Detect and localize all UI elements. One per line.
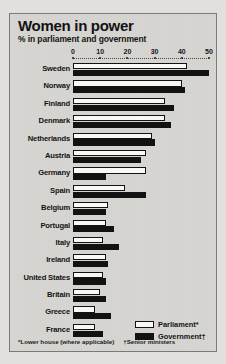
chart-row: Germany <box>10 167 216 184</box>
x-axis-tick-mark <box>126 57 128 59</box>
x-axis-tick-label: 0 <box>71 48 75 56</box>
bar-government <box>73 244 119 250</box>
country-label: Greece <box>10 307 70 316</box>
bar-pair <box>73 185 146 198</box>
bar-government <box>73 278 106 284</box>
bar-pair <box>73 133 155 146</box>
bar-government <box>73 87 185 93</box>
bar-government <box>73 261 108 267</box>
bar-pair <box>73 202 108 215</box>
bar-parliament <box>73 289 100 295</box>
bar-government <box>73 157 141 163</box>
x-axis-tick-mark <box>99 57 101 59</box>
chart-row: United States <box>10 272 216 289</box>
country-label: Norway <box>10 81 70 90</box>
chart-subtitle: % in parliament and government <box>18 34 216 45</box>
chart-row: Ireland <box>10 254 216 271</box>
bar-parliament <box>73 167 146 173</box>
chart-row: Britain <box>10 289 216 306</box>
bar-parliament <box>73 220 106 226</box>
bar-pair <box>73 306 111 319</box>
country-label: Netherlands <box>10 134 70 143</box>
country-label: United States <box>10 273 70 282</box>
country-label: Germany <box>10 168 70 177</box>
chart-title: Women in power <box>18 18 216 34</box>
chart-row: Belgium <box>10 202 216 219</box>
bar-parliament <box>73 63 187 69</box>
chart-row: Denmark <box>10 115 216 132</box>
bar-parliament <box>73 133 152 139</box>
chart-row: Spain <box>10 185 216 202</box>
newspaper-page: Women in power % in parliament and gover… <box>0 0 226 364</box>
bar-government <box>73 313 111 319</box>
x-axis-tick-mark <box>208 57 210 59</box>
chart-row: Netherlands <box>10 133 216 150</box>
bar-parliament <box>73 80 182 86</box>
footnote: *Lower house (where applicable) <box>18 338 114 346</box>
bar-government <box>73 70 209 76</box>
bar-parliament <box>73 272 103 278</box>
bar-government <box>73 105 174 111</box>
legend-item: Parliament* <box>135 320 226 329</box>
plot-area: 01020304050 SwedenNorwayFinlandDenmarkNe… <box>10 48 216 351</box>
bar-pair <box>73 80 185 93</box>
bar-pair <box>73 63 209 76</box>
bar-government <box>73 331 103 337</box>
bar-parliament <box>73 306 95 312</box>
bar-government <box>73 139 155 145</box>
bar-government <box>73 192 146 198</box>
bar-parliament <box>73 150 146 156</box>
chart-row: Norway <box>10 80 216 97</box>
bar-government <box>73 174 106 180</box>
chart-row: Italy <box>10 237 216 254</box>
chart-row: Sweden <box>10 63 216 80</box>
bar-pair <box>73 289 106 302</box>
footnote: †Senior ministers <box>123 338 175 346</box>
bar-government <box>73 209 106 215</box>
bar-pair <box>73 237 119 250</box>
x-axis-tick-label: 50 <box>205 48 213 56</box>
bar-parliament <box>73 254 106 260</box>
country-label: Sweden <box>10 64 70 73</box>
bar-pair <box>73 220 114 233</box>
bar-government <box>73 226 114 232</box>
bar-pair <box>73 254 108 267</box>
country-label: Belgium <box>10 203 70 212</box>
x-axis-tick-label: 30 <box>151 48 159 56</box>
bar-pair <box>73 150 146 163</box>
chart-row: Finland <box>10 98 216 115</box>
country-label: France <box>10 325 70 334</box>
chart-figure: Women in power % in parliament and gover… <box>9 13 217 352</box>
chart-header: Women in power % in parliament and gover… <box>10 14 216 47</box>
country-label: Austria <box>10 151 70 160</box>
bar-government <box>73 122 171 128</box>
bar-pair <box>73 324 103 337</box>
bar-parliament <box>73 324 95 330</box>
bar-parliament <box>73 115 165 121</box>
bar-parliament <box>73 202 108 208</box>
bar-government <box>73 296 106 302</box>
x-axis-tick-label: 10 <box>96 48 104 56</box>
bar-parliament <box>73 237 103 243</box>
x-axis-tick-label: 20 <box>123 48 131 56</box>
white-outlined-swatch <box>135 321 154 328</box>
x-axis-tick-mark <box>72 57 74 59</box>
x-axis-tick-mark <box>154 57 156 59</box>
bar-parliament <box>73 98 165 104</box>
bar-pair <box>73 272 106 285</box>
x-axis-tick-labels: 01020304050 <box>10 48 216 58</box>
country-label: Italy <box>10 238 70 247</box>
bar-parliament <box>73 185 125 191</box>
bar-pair <box>73 115 171 128</box>
chart-row: Austria <box>10 150 216 167</box>
country-label: Denmark <box>10 116 70 125</box>
country-label: Portugal <box>10 221 70 230</box>
x-axis-tick-label: 40 <box>178 48 186 56</box>
bar-rows: SwedenNorwayFinlandDenmarkNetherlandsAus… <box>10 63 216 341</box>
legend-label: Parliament* <box>158 320 199 329</box>
country-label: Ireland <box>10 255 70 264</box>
chart-footnotes: *Lower house (where applicable)†Senior m… <box>18 338 211 346</box>
bar-pair <box>73 98 174 111</box>
country-label: Britain <box>10 290 70 299</box>
bar-pair <box>73 167 146 180</box>
